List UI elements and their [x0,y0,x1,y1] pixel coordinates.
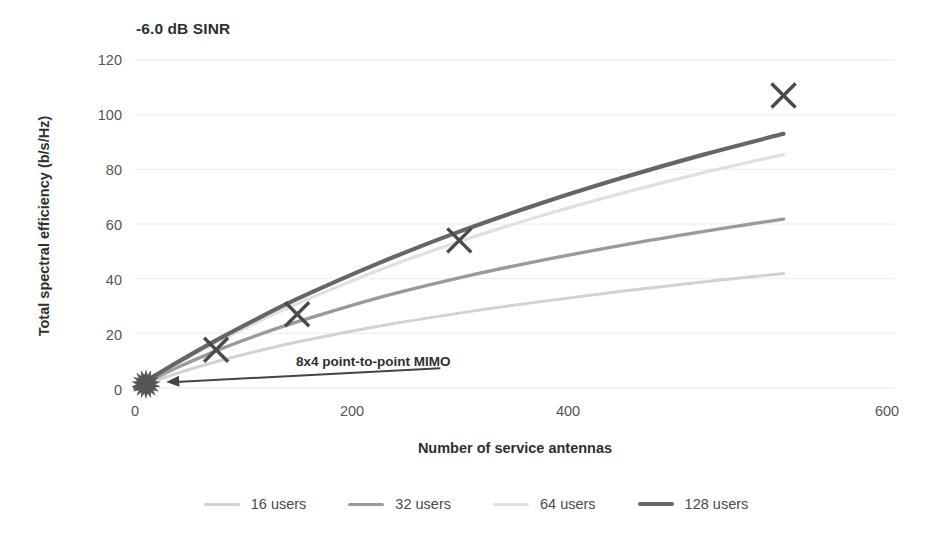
legend-item-16-users[interactable]: 16 users [204,496,307,512]
legend-label-32-users: 32 users [395,496,451,512]
annotation-arrow [166,368,440,386]
legend-swatch-16-users [204,503,240,506]
legend-label-16-users: 16 users [251,496,307,512]
x-markers [204,84,795,362]
series-lines [135,134,784,388]
legend-swatch-32-users [348,503,384,506]
chart-container: -6.0 dB SINR Total spectral efficiency (… [0,0,952,556]
plot-area [0,0,952,556]
legend-item-128-users[interactable]: 128 users [638,496,749,512]
chart-legend: 16 users 32 users 64 users 128 users [0,496,952,512]
annotation-label: 8x4 point-to-point MIMO [296,354,450,369]
legend-label-64-users: 64 users [540,496,596,512]
legend-swatch-64-users [493,503,529,506]
legend-item-32-users[interactable]: 32 users [348,496,451,512]
legend-label-128-users: 128 users [685,496,749,512]
legend-item-64-users[interactable]: 64 users [493,496,596,512]
legend-swatch-128-users [638,502,674,506]
